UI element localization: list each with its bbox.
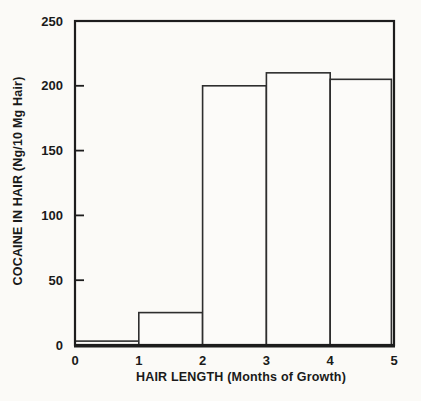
- cocaine-hair-histogram: 050100150200250012345 COCAINE IN HAIR (N…: [0, 0, 421, 401]
- x-tick-label: 5: [390, 353, 397, 368]
- x-axis-title: HAIR LENGTH (Months of Growth): [136, 370, 346, 384]
- histogram-bar-1-2: [139, 313, 203, 345]
- x-tick-label: 4: [327, 353, 335, 368]
- x-tick-label: 2: [199, 353, 206, 368]
- y-axis-title: COCAINE IN HAIR (Ng/10 Mg Hair): [11, 77, 25, 286]
- y-tick-label: 150: [41, 143, 63, 158]
- x-tick-label: 1: [135, 353, 142, 368]
- figure-scan: 050100150200250012345 COCAINE IN HAIR (N…: [0, 0, 421, 401]
- plot-generated-layer: 050100150200250012345: [41, 14, 397, 369]
- y-tick-label: 50: [49, 273, 63, 288]
- histogram-bar-4-5: [330, 79, 391, 345]
- y-tick-label: 250: [41, 14, 63, 29]
- histogram-bar-3-4: [266, 73, 330, 345]
- y-tick-label: 200: [41, 78, 63, 93]
- y-tick-label: 0: [56, 338, 63, 353]
- histogram-bar-2-3: [203, 86, 267, 345]
- x-tick-label: 0: [71, 353, 78, 368]
- y-tick-label: 100: [41, 208, 63, 223]
- x-tick-label: 3: [263, 353, 270, 368]
